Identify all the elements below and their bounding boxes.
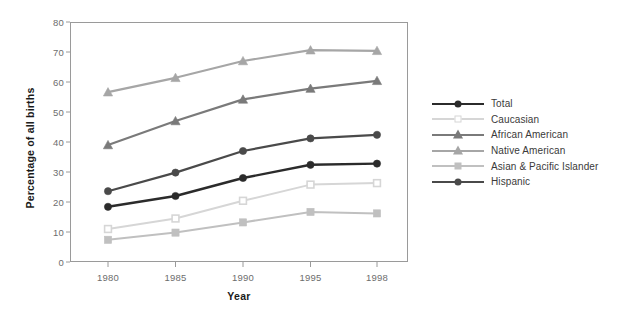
legend: TotalCaucasianAfrican AmericanNative Ame… [432, 96, 612, 190]
x-tick-label: 1980 [97, 272, 119, 283]
legend-label: Asian & Pacific Islander [484, 161, 598, 172]
legend-label: Native American [484, 145, 565, 156]
x-axis-title: Year [70, 290, 408, 302]
x-tick-label: 1990 [232, 272, 254, 283]
legend-item-hispanic[interactable]: Hispanic [432, 174, 612, 190]
legend-item-african-american[interactable]: African American [432, 127, 612, 143]
plot-area [70, 22, 408, 262]
y-tick-label: 70 [30, 47, 64, 58]
legend-swatch [432, 144, 484, 158]
legend-label: African American [484, 129, 568, 140]
y-tick-label: 80 [30, 17, 64, 28]
legend-marker-square-open-icon [455, 116, 462, 123]
legend-label: Caucasian [484, 114, 539, 125]
legend-swatch [432, 175, 484, 189]
legend-marker-triangle-icon [453, 130, 463, 139]
y-tick-label: 0 [30, 257, 64, 268]
legend-item-native-american[interactable]: Native American [432, 143, 612, 159]
legend-swatch [432, 128, 484, 142]
legend-label: Total [484, 98, 513, 109]
legend-marker-circle-icon [455, 100, 462, 107]
legend-swatch [432, 112, 484, 126]
legend-marker-square-icon [455, 163, 462, 170]
chart-root: 01020304050607080 19801985199019951998 P… [0, 0, 618, 320]
x-tick-label: 1995 [300, 272, 322, 283]
legend-swatch [432, 97, 484, 111]
legend-marker-circle-icon [455, 178, 462, 185]
legend-item-caucasian[interactable]: Caucasian [432, 112, 612, 128]
x-tick-label: 1998 [366, 272, 388, 283]
legend-item-total[interactable]: Total [432, 96, 612, 112]
y-axis-title: Percentage of all births [24, 63, 36, 233]
legend-item-asian-pacific-islander[interactable]: Asian & Pacific Islander [432, 158, 612, 174]
x-tick-label: 1985 [165, 272, 187, 283]
legend-label: Hispanic [484, 176, 530, 187]
legend-swatch [432, 159, 484, 173]
legend-marker-triangle-icon [453, 145, 463, 154]
